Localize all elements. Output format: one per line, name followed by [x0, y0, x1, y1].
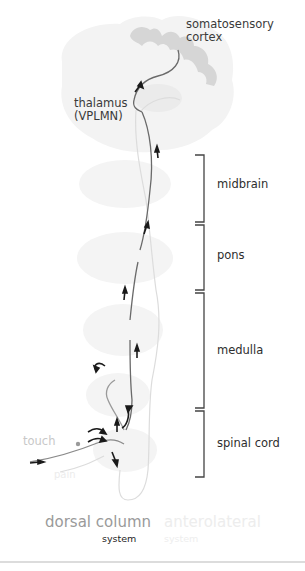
- diagram-artwork: [0, 0, 305, 571]
- bracket-medulla: [195, 293, 204, 408]
- legend-anterolateral-title: anterolateral: [164, 514, 261, 531]
- legend-dorsal-title: dorsal column: [45, 514, 151, 531]
- legend-dorsal-subtitle: system: [102, 533, 136, 544]
- label-touch: touch: [23, 435, 55, 448]
- bracket-midbrain: [195, 155, 204, 222]
- bracket-spinal-cord: [195, 411, 204, 477]
- region-label-medulla: medulla: [217, 344, 263, 357]
- legend-anterolateral-subtitle: system: [164, 533, 198, 544]
- label-pain: pain: [54, 468, 76, 481]
- label-somatosensory-cortex: somatosensory cortex: [186, 18, 274, 44]
- region-label-spinal-cord: spinal cord: [217, 437, 280, 450]
- region-label-midbrain: midbrain: [217, 178, 268, 191]
- region-brackets: [195, 155, 204, 477]
- region-label-pons: pons: [217, 249, 245, 262]
- dorsal-column-pathway-diagram: somatosensory cortex thalamus (VPLMN) to…: [0, 0, 305, 571]
- dorsal-root-ganglion: [76, 442, 80, 446]
- label-thalamus: thalamus (VPLMN): [74, 97, 128, 123]
- bottom-divider: [0, 561, 305, 563]
- bracket-pons: [195, 225, 204, 290]
